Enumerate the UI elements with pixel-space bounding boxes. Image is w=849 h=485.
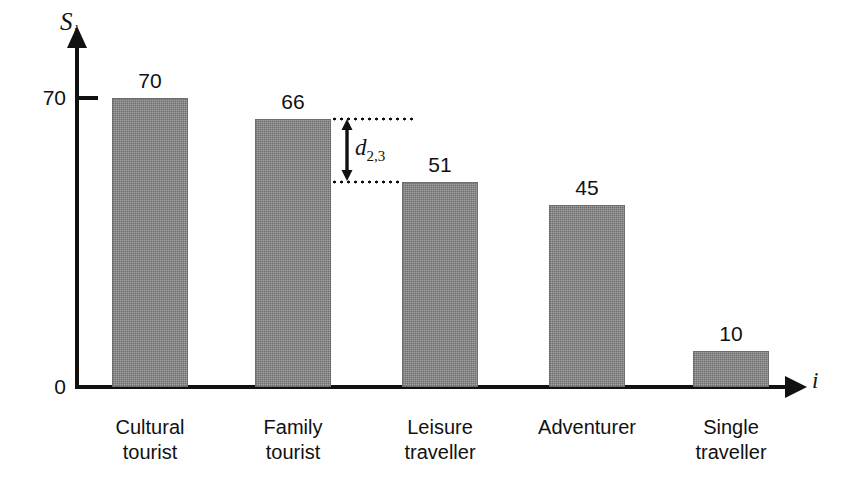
annotation-distance-label: d2,3 [355,135,385,165]
category-label-line-1: Leisure [370,415,510,440]
x-axis-category-label-family-tourist: Family tourist [223,415,363,465]
annotation-symbol: d [355,135,367,160]
bar-family-tourist [255,119,331,387]
annotation-double-arrow-icon [340,119,354,181]
x-axis-category-label-leisure-traveller: Leisure traveller [370,415,510,465]
category-label-line-1: Single [661,415,801,440]
bar-value-label: 70 [110,69,190,93]
x-axis-category-label-cultural-tourist: Cultural tourist [80,415,220,465]
category-label-line-2: traveller [661,440,801,465]
category-label-line-2: traveller [370,440,510,465]
bar-leisure-traveller [402,182,478,387]
x-axis-category-label-single-traveller: Single traveller [661,415,801,465]
chart-screenshot: Si i 70 0 70 Cultural tourist 66 Family … [0,0,849,485]
category-label-line-1: Adventurer [517,415,657,440]
bar-cultural-tourist [112,98,188,387]
bar-value-label: 51 [400,153,480,177]
bar-value-label: 10 [691,322,771,346]
bar-adventurer [549,205,625,387]
category-label-line-2: tourist [223,440,363,465]
annotation-subscript: 2,3 [367,148,386,164]
category-label-line-1: Cultural [80,415,220,440]
plot-area: 70 Cultural tourist 66 Family tourist 51… [0,0,849,485]
x-axis-category-label-adventurer: Adventurer [517,415,657,440]
category-label-line-2: tourist [80,440,220,465]
bar-value-label: 45 [547,176,627,200]
bar-value-label: 66 [253,90,333,114]
bar-single-traveller [693,351,769,387]
category-label-line-1: Family [223,415,363,440]
